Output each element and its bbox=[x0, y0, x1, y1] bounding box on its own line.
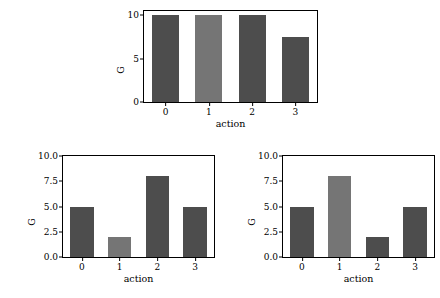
bar-group bbox=[63, 156, 214, 257]
bar-slot bbox=[359, 156, 397, 257]
bar-slot bbox=[283, 156, 321, 257]
bar bbox=[403, 207, 426, 258]
y-axis-label: G bbox=[116, 66, 126, 74]
x-tick-label: 0 bbox=[163, 108, 169, 117]
bar bbox=[366, 237, 389, 257]
x-axis-label: action bbox=[144, 119, 317, 129]
plot-area: 0.02.55.07.510.0 0123 action bbox=[282, 155, 435, 258]
x-tick-label: 2 bbox=[249, 108, 255, 117]
x-tick-label: 3 bbox=[412, 263, 418, 272]
x-tick-label: 1 bbox=[117, 263, 123, 272]
bar-slot bbox=[63, 156, 101, 257]
bar-slot bbox=[187, 11, 230, 102]
x-axis-label: action bbox=[283, 274, 434, 284]
bar bbox=[70, 207, 93, 258]
y-tick-label: 5.0 bbox=[44, 202, 58, 211]
bar-group bbox=[283, 156, 434, 257]
chart-panel-bottom-right: G 0.02.55.07.510.0 0123 action bbox=[222, 145, 440, 298]
x-tick-label: 1 bbox=[206, 108, 212, 117]
x-tick-label: 1 bbox=[337, 263, 343, 272]
y-axis-label: G bbox=[247, 218, 257, 226]
bar bbox=[152, 15, 179, 102]
bar-slot bbox=[231, 11, 274, 102]
plot-area: 0.02.55.07.510.0 0123 action bbox=[62, 155, 215, 258]
bar bbox=[239, 15, 266, 102]
y-tick-label: 5 bbox=[133, 54, 139, 63]
y-tick-label: 2.5 bbox=[44, 227, 58, 236]
y-tick-label: 0 bbox=[133, 98, 139, 107]
x-axis-label: action bbox=[63, 274, 214, 284]
bar-slot bbox=[144, 11, 187, 102]
y-axis-label: G bbox=[27, 218, 37, 226]
bar bbox=[183, 207, 206, 258]
chart-panel-bottom-left: G 0.02.55.07.510.0 0123 action bbox=[2, 145, 220, 298]
x-tick-label: 0 bbox=[79, 263, 85, 272]
bar bbox=[195, 15, 222, 102]
x-tick-label: 2 bbox=[155, 263, 161, 272]
bar-slot bbox=[176, 156, 214, 257]
bar-slot bbox=[396, 156, 434, 257]
x-tick-label: 2 bbox=[375, 263, 381, 272]
y-tick-label: 7.5 bbox=[264, 177, 278, 186]
plot-wrapper: G 0.02.55.07.510.0 0123 action bbox=[222, 145, 440, 298]
y-tick-label: 5.0 bbox=[264, 202, 278, 211]
bar-slot bbox=[321, 156, 359, 257]
plot-wrapper: G 0.02.55.07.510.0 0123 action bbox=[2, 145, 220, 298]
bar-slot bbox=[274, 11, 317, 102]
bar bbox=[328, 176, 351, 257]
x-tick-label: 0 bbox=[299, 263, 305, 272]
bar-group bbox=[144, 11, 317, 102]
y-tick-label: 2.5 bbox=[264, 227, 278, 236]
x-tick-label: 3 bbox=[192, 263, 198, 272]
plot-area: 0510 0123 action bbox=[143, 10, 318, 103]
y-tick-label: 7.5 bbox=[44, 177, 58, 186]
y-tick-label: 10 bbox=[128, 11, 139, 20]
y-tick-label: 0.0 bbox=[44, 253, 58, 262]
plot-wrapper: G 0510 0123 action bbox=[110, 0, 330, 140]
y-tick-label: 10.0 bbox=[258, 152, 278, 161]
bar-slot bbox=[101, 156, 139, 257]
y-tick-label: 0.0 bbox=[264, 253, 278, 262]
bar bbox=[290, 207, 313, 258]
y-tick-label: 10.0 bbox=[38, 152, 58, 161]
x-tick-label: 3 bbox=[293, 108, 299, 117]
bar bbox=[108, 237, 131, 257]
bar-slot bbox=[139, 156, 177, 257]
chart-panel-top: G 0510 0123 action bbox=[110, 0, 330, 140]
bar bbox=[282, 37, 309, 102]
bar bbox=[146, 176, 169, 257]
